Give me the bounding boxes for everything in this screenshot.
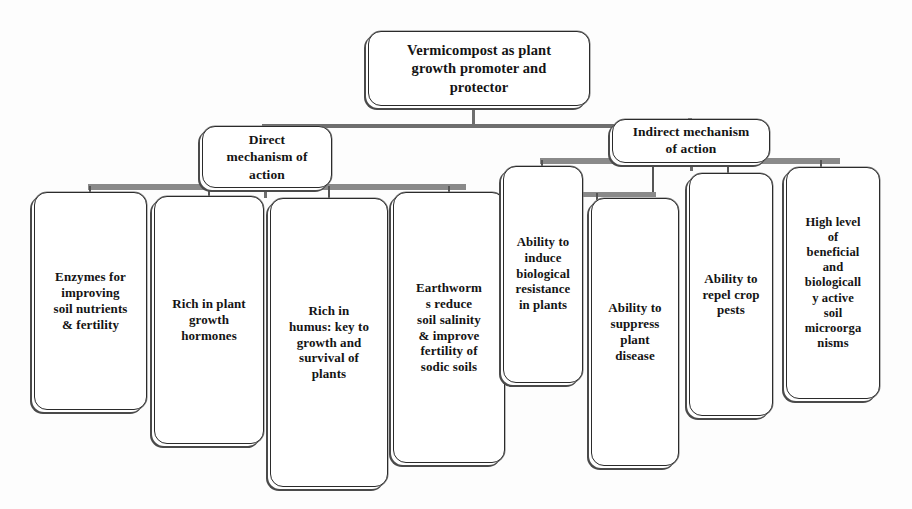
node-label: High level of beneficial and biologicall… <box>787 215 879 351</box>
diagram-canvas: Vermicompost as plant growth promoter an… <box>0 0 912 509</box>
node-label: Indirect mechanism of action <box>613 124 769 158</box>
connector-elbow-vertical <box>652 160 654 196</box>
node-label: Enzymes for improving soil nutrients & f… <box>35 269 146 332</box>
node-label: Ability to suppress plant disease <box>592 300 678 363</box>
node-label: Rich in plant growth hormones <box>155 296 263 344</box>
node-enzymes-soil-nutrients[interactable]: Enzymes for improving soil nutrients & f… <box>34 192 147 410</box>
node-label: Direct mechanism of action <box>203 131 331 184</box>
node-label: Rich in humus: key to growth and surviva… <box>271 303 387 382</box>
node-suppress-plant-disease[interactable]: Ability to suppress plant disease <box>591 198 679 466</box>
node-direct-mechanism[interactable]: Direct mechanism of action <box>202 126 332 188</box>
node-label: Earthworm s reduce soil salinity & impro… <box>394 280 504 375</box>
node-rich-in-humus[interactable]: Rich in humus: key to growth and surviva… <box>270 198 388 487</box>
connector-indirect-down <box>690 163 693 171</box>
node-induce-biological-resistance[interactable]: Ability to induce biological resistance … <box>503 166 583 383</box>
node-label: Ability to repel crop pests <box>690 271 772 319</box>
node-repel-crop-pests[interactable]: Ability to repel crop pests <box>689 173 773 416</box>
node-plant-growth-hormones[interactable]: Rich in plant growth hormones <box>154 196 264 444</box>
node-beneficial-soil-microorganisms[interactable]: High level of beneficial and biologicall… <box>786 167 880 399</box>
node-indirect-mechanism[interactable]: Indirect mechanism of action <box>612 119 770 163</box>
node-vermicompost-root[interactable]: Vermicompost as plant growth promoter an… <box>368 31 590 106</box>
node-earthworms-soil-salinity[interactable]: Earthworm s reduce soil salinity & impro… <box>393 192 505 463</box>
node-label: Vermicompost as plant growth promoter an… <box>369 41 589 97</box>
node-label: Ability to induce biological resistance … <box>504 235 582 313</box>
